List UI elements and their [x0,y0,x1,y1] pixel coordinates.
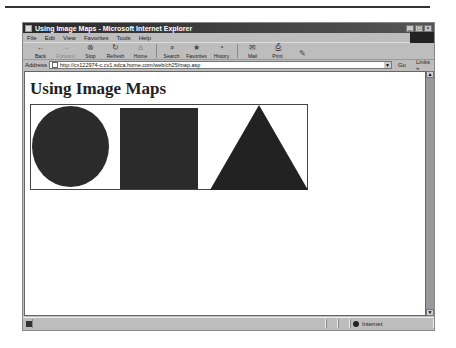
scroll-down-button[interactable]: ▼ [426,309,434,316]
favorites-button[interactable]: ★ Favorites [185,44,208,59]
status-text [32,319,326,328]
windows-logo-throbber [410,32,434,43]
refresh-icon: ↻ [111,44,120,52]
address-label: Address [25,62,47,68]
menu-favorites[interactable]: Favorites [84,35,109,41]
print-button[interactable]: ⎙ Print [266,44,289,59]
page-content: Using Image Maps [24,71,426,316]
favorites-folder-icon: ★ [192,44,201,52]
page-rule [5,6,430,8]
edit-icon: ✎ [298,50,307,58]
ie-app-icon [25,25,32,32]
toolbar-separator [156,44,157,58]
close-button[interactable]: × [424,25,432,32]
edit-button[interactable]: ✎ [291,50,314,59]
page-icon [52,62,58,68]
square-hotspot[interactable] [120,108,198,189]
address-input[interactable]: http://cx122974-c.cv1.sdca.home.com/web/… [49,61,392,69]
status-cell [338,319,350,328]
back-button[interactable]: ← Back [29,44,52,59]
standard-toolbar: ← Back → Forward ⊗ Stop ↻ Refresh ⌂ Home… [23,42,434,60]
forward-button[interactable]: → Forward [54,44,77,59]
menu-tools[interactable]: Tools [117,35,131,41]
home-button[interactable]: ⌂ Home [129,44,152,59]
go-button[interactable]: Go [398,62,406,68]
refresh-button[interactable]: ↻ Refresh [104,44,127,59]
image-map [30,104,308,190]
menu-bar: File Edit View Favorites Tools Help [23,33,434,42]
links-button[interactable]: Links » [416,59,434,71]
print-icon: ⎙ [273,44,282,52]
menu-edit[interactable]: Edit [45,35,55,41]
circle-hotspot[interactable] [32,106,109,187]
status-bar: Internet [23,317,434,329]
history-icon: ◔ [217,44,226,52]
address-bar: Address http://cx122974-c.cv1.sdca.home.… [23,60,434,70]
vertical-scrollbar[interactable]: ▲ ▼ [426,71,434,316]
menu-view[interactable]: View [63,35,76,41]
address-dropdown-button[interactable]: ▼ [384,62,391,68]
menu-file[interactable]: File [27,35,37,41]
mail-button[interactable]: ✉ Mail [241,44,264,59]
menu-help[interactable]: Help [139,35,151,41]
mail-icon: ✉ [248,44,257,52]
search-button[interactable]: ⌕ Search [160,44,183,59]
search-icon: ⌕ [167,44,176,52]
stop-icon: ⊗ [86,44,95,52]
triangle-hotspot[interactable] [210,105,308,190]
title-bar: Using Image Maps - Microsoft Internet Ex… [23,23,434,33]
home-icon: ⌂ [136,44,145,52]
page-heading: Using Image Maps [30,79,166,99]
history-button[interactable]: ◔ History [210,44,233,59]
security-zone: Internet [350,319,434,328]
back-arrow-icon: ← [36,44,45,52]
maximize-button[interactable]: □ [415,25,423,32]
toolbar-separator [237,44,238,58]
window-title: Using Image Maps - Microsoft Internet Ex… [35,25,192,32]
stop-button[interactable]: ⊗ Stop [79,44,102,59]
status-cell [326,319,338,328]
browser-window: Using Image Maps - Microsoft Internet Ex… [22,22,435,331]
minimize-button[interactable]: _ [406,25,414,32]
forward-arrow-icon: → [61,44,70,52]
globe-icon [353,321,359,327]
scroll-up-button[interactable]: ▲ [426,71,434,78]
address-url[interactable]: http://cx122974-c.cv1.sdca.home.com/web/… [60,62,200,68]
